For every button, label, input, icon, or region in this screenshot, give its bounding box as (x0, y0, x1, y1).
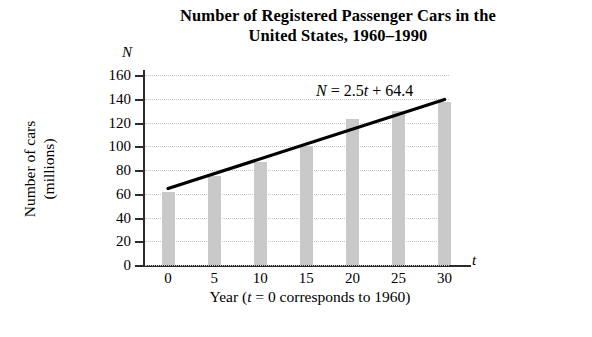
chart-figure: Number of Registered Passenger Cars in t… (0, 0, 592, 337)
x-axis-title-variable: t (247, 288, 251, 305)
trend-line (143, 70, 465, 266)
y-axis-title-line-1: Number of cars (20, 74, 39, 264)
x-axis-title: Year (t = 0 corresponds to 1960) (110, 288, 510, 306)
y-axis-tick-label: 60 (91, 187, 131, 202)
x-axis-tick-label: 30 (425, 270, 465, 287)
x-axis-tick-label: 10 (240, 270, 280, 287)
y-axis-tick-label: 120 (91, 116, 131, 131)
chart-title-line-1: Number of Registered Passenger Cars in t… (180, 6, 496, 25)
y-axis-letter: N (122, 44, 132, 61)
x-axis-letter: t (472, 252, 476, 269)
chart-title: Number of Registered Passenger Cars in t… (118, 6, 558, 46)
y-axis-title-line-2: (millions) (39, 74, 58, 264)
x-axis-tick-label: 20 (332, 270, 372, 287)
plot-area: 160140120100806040200 051015202530 (143, 70, 465, 266)
y-axis-tick-label: 140 (91, 92, 131, 107)
y-axis-title: Number of cars (millions) (20, 74, 58, 264)
y-axis-tick-label: 80 (91, 163, 131, 178)
y-axis-tick-label: 160 (91, 68, 131, 83)
x-axis-tick-label: 15 (286, 270, 326, 287)
y-axis-tick-label: 20 (91, 234, 131, 249)
x-axis-tick-label: 0 (148, 270, 188, 287)
chart-title-line-2: United States, 1960–1990 (118, 26, 558, 46)
x-axis-tick-label: 5 (194, 270, 234, 287)
x-axis-tick-label: 25 (378, 270, 418, 287)
y-axis-tick-label: 0 (91, 258, 131, 273)
y-axis-tick-label: 40 (91, 211, 131, 226)
y-axis-tick-label: 100 (91, 139, 131, 154)
